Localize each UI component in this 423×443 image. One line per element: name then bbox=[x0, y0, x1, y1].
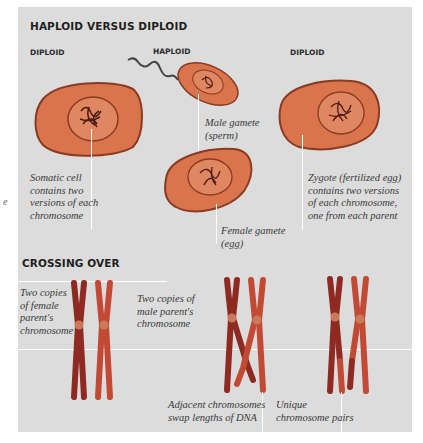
caption-male-chromosomes: Two copies of male parent's chromosome bbox=[137, 293, 195, 331]
caption-female-gamete: Female gamete (egg) bbox=[221, 225, 285, 250]
caption-unique-pairs: Unique chromosome pairs bbox=[276, 399, 353, 424]
caption-female-chromosomes: Two copies of female parent's chromosome bbox=[20, 287, 73, 337]
caption-male-gamete: Male gamete (sperm) bbox=[205, 117, 260, 142]
label-diploid-left: DIPLOID bbox=[30, 48, 64, 57]
zygote-cell-illustration bbox=[275, 77, 385, 153]
label-diploid-right: DIPLOID bbox=[290, 48, 324, 57]
diagram-panel: HAPLOID VERSUS DIPLOID DIPLOID HAPLOID D… bbox=[18, 7, 412, 432]
caption-somatic-cell: Somatic cell contains two versions of ea… bbox=[30, 172, 98, 222]
sperm-cell-illustration bbox=[126, 52, 246, 112]
leader-line-zygote bbox=[302, 135, 303, 230]
caption-zygote: Zygote (fertilized egg) contains two ver… bbox=[308, 172, 401, 222]
section-title-haploid-vs-diploid: HAPLOID VERSUS DIPLOID bbox=[30, 20, 187, 32]
section-title-crossing-over: CROSSING OVER bbox=[22, 257, 120, 269]
chromosome-pair-crossing bbox=[223, 278, 269, 398]
cropped-text-fragment: e bbox=[3, 196, 7, 207]
chromosome-pair-initial bbox=[70, 281, 116, 401]
leader-line-egg bbox=[216, 204, 217, 244]
egg-cell-illustration bbox=[158, 145, 258, 217]
chromosome-pair-unique bbox=[326, 277, 372, 397]
caption-swap-dna: Adjacent chromosomes swap lengths of DNA bbox=[168, 399, 265, 424]
